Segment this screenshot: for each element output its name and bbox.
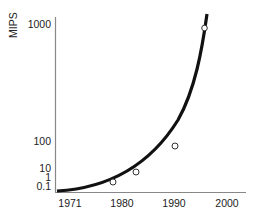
x-tick-label: 1980 <box>110 197 134 209</box>
data-point <box>172 143 178 149</box>
y-tick-label: 100 <box>33 135 51 147</box>
data-point <box>202 25 208 31</box>
x-tick-label: 1990 <box>162 197 186 209</box>
y-tick-label: 0.1 <box>36 180 51 192</box>
trend-curve <box>57 14 207 191</box>
y-tick-label: 1000 <box>28 18 52 30</box>
data-point <box>110 179 116 185</box>
x-tick-label: 1971 <box>58 197 82 209</box>
data-point <box>133 169 139 175</box>
chart: MIPS 1000 100 10 1 0.1 1971 1980 1990 20… <box>0 0 260 222</box>
y-axis-label: MIPS <box>7 12 19 38</box>
x-tick-label: 2000 <box>215 197 239 209</box>
